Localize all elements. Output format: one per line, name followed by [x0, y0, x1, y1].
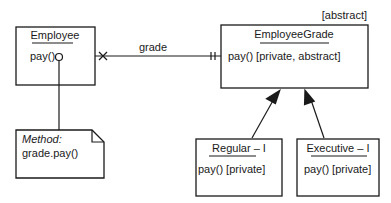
class-regular-name: Regular – I	[212, 142, 266, 154]
association-label: grade	[139, 41, 167, 53]
class-employee-name: Employee	[31, 29, 80, 41]
note-method[interactable]: Method: grade.pay()	[16, 130, 104, 178]
class-regular-operation: pay() [private]	[198, 163, 265, 175]
class-executive[interactable]: Executive – I pay() [private]	[297, 139, 379, 196]
class-employee-grade-stereotype: [abstract]	[322, 9, 367, 21]
generalization-regular	[252, 85, 284, 138]
class-executive-name: Executive – I	[307, 142, 370, 154]
generalization-line	[252, 97, 275, 138]
generalization-executive	[299, 86, 324, 138]
note-body: grade.pay()	[22, 147, 78, 159]
class-employee-operation: pay()	[30, 50, 55, 62]
class-employee-grade-operation: pay() [private, abstract]	[228, 50, 341, 62]
class-employee-grade-name: EmployeeGrade	[254, 28, 334, 40]
association-grade[interactable]: grade	[95, 41, 222, 60]
class-regular[interactable]: Regular – I pay() [private]	[196, 139, 282, 196]
class-employee-grade[interactable]: [abstract] EmployeeGrade pay() [private,…	[221, 9, 368, 88]
class-executive-operation: pay() [private]	[304, 163, 371, 175]
uml-class-diagram: Employee pay() Method: grade.pay() grade…	[0, 0, 391, 203]
arrowhead-icon	[299, 86, 316, 105]
interface-lollipop-icon	[56, 54, 63, 61]
note-title: Method:	[22, 133, 62, 145]
class-employee[interactable]: Employee pay()	[16, 27, 95, 85]
generalization-line	[310, 97, 324, 138]
